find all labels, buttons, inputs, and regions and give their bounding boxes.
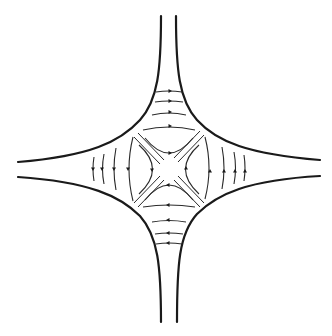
wall-top-left — [18, 16, 161, 162]
top-arm-streamlines — [143, 89, 195, 130]
wall-top-right — [176, 16, 320, 160]
wall-bottom-left — [18, 177, 161, 322]
channel-walls — [18, 16, 320, 322]
cross-junction-flow-diagram — [0, 0, 332, 336]
central-separatrices — [134, 131, 204, 207]
central-hyperbolic-streamlines — [139, 138, 199, 200]
bottom-arm-streamlines — [143, 203, 195, 245]
